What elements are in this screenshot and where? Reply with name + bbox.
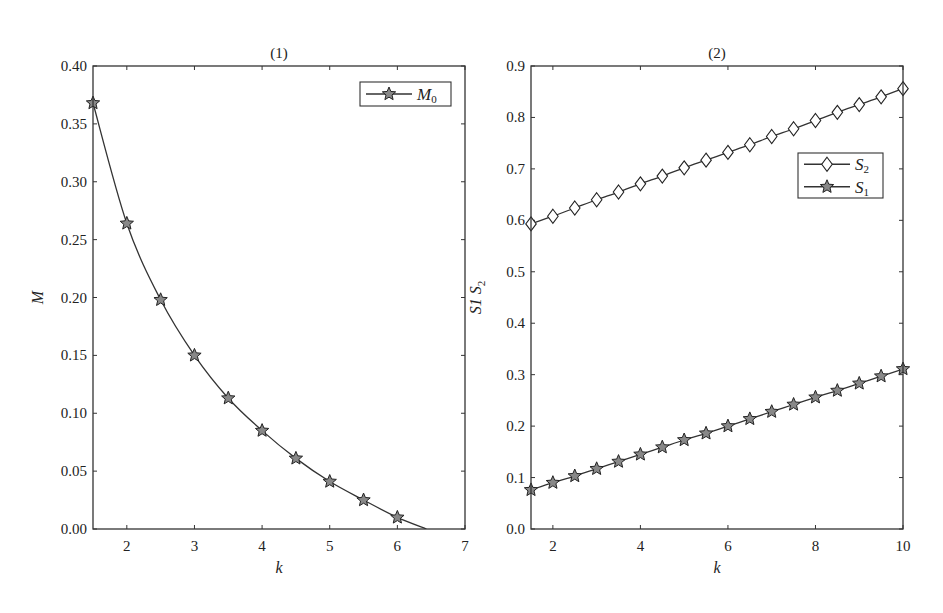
y-tick-label: 0.05 [61, 463, 87, 479]
x-tick-label: 4 [637, 538, 645, 554]
star-marker-icon [656, 440, 669, 453]
y-tick-label: 0.15 [61, 347, 87, 363]
y-tick-label: 0.00 [61, 521, 87, 537]
y-tick-label: 0.20 [61, 290, 87, 306]
plot-area-frame [93, 66, 465, 529]
series-line [531, 369, 903, 490]
x-tick-label: 3 [191, 538, 199, 554]
star-marker-icon [546, 476, 559, 489]
x-tick-label: 6 [394, 538, 402, 554]
y-tick-label: 0.8 [506, 109, 525, 125]
chart-panel-1: (1)2345670.000.050.100.150.200.250.300.3… [29, 45, 469, 576]
legend: M0 [360, 82, 451, 106]
y-tick-label: 0.10 [61, 405, 87, 421]
diamond-marker-icon [548, 209, 559, 223]
star-marker-icon [743, 412, 756, 425]
x-axis-label: k [713, 559, 721, 576]
chart-title: (2) [708, 45, 726, 62]
y-tick-label: 0.7 [506, 161, 525, 177]
diamond-marker-icon [723, 145, 734, 159]
y-tick-label: 0.3 [506, 367, 525, 383]
chart-title: (1) [270, 45, 288, 62]
series-markers [86, 96, 404, 523]
x-axis-label: k [275, 559, 283, 576]
star-marker-icon [765, 405, 778, 418]
star-marker-icon [357, 493, 370, 506]
figure: (1)2345670.000.050.100.150.200.250.300.3… [0, 0, 943, 613]
x-tick-label: 8 [812, 538, 820, 554]
series-S1 [531, 369, 903, 490]
diamond-marker-icon [810, 114, 821, 128]
y-tick-label: 0.0 [506, 521, 525, 537]
diamond-marker-icon [591, 193, 602, 207]
diamond-marker-icon [635, 177, 646, 191]
star-marker-icon [188, 348, 201, 361]
star-marker-icon [831, 384, 844, 397]
star-marker-icon [809, 390, 822, 403]
x-tick-label: 2 [549, 538, 557, 554]
diamond-marker-icon [613, 185, 624, 199]
diamond-marker-icon [766, 129, 777, 143]
star-marker-icon [154, 293, 167, 306]
series-markers [524, 362, 909, 496]
y-tick-label: 0.2 [506, 418, 525, 434]
diamond-marker-icon [570, 201, 581, 215]
x-tick-label: 6 [724, 538, 732, 554]
star-marker-icon [323, 475, 336, 488]
star-marker-icon [787, 398, 800, 411]
x-tick-label: 5 [326, 538, 334, 554]
plot-area-frame [531, 66, 903, 529]
x-tick-label: 4 [258, 538, 266, 554]
y-tick-label: 0.6 [506, 212, 525, 228]
y-axis-label: M [29, 289, 46, 305]
series-line [93, 103, 426, 529]
y-tick-label: 0.25 [61, 232, 87, 248]
x-tick-label: 2 [123, 538, 131, 554]
diamond-marker-icon [701, 153, 712, 167]
diamond-marker-icon [876, 90, 887, 104]
legend: S2S1 [798, 153, 883, 198]
diamond-marker-icon [854, 98, 865, 112]
x-tick-label: 10 [896, 538, 911, 554]
diamond-marker-icon [679, 161, 690, 175]
y-tick-label: 0.1 [506, 470, 525, 486]
star-marker-icon [634, 447, 647, 460]
diamond-marker-icon [657, 169, 668, 183]
x-tick-label: 7 [461, 538, 469, 554]
star-marker-icon [590, 462, 603, 475]
star-marker-icon [874, 369, 887, 382]
star-marker-icon [699, 426, 712, 439]
chart-panel-2: (2)2468100.00.10.20.30.40.50.60.70.80.9k… [467, 45, 911, 576]
y-tick-label: 0.40 [61, 58, 87, 74]
star-marker-icon [721, 419, 734, 432]
diamond-marker-icon [745, 138, 756, 152]
legend-box [798, 153, 883, 198]
star-marker-icon [568, 469, 581, 482]
diamond-marker-icon [788, 122, 799, 136]
y-axis-label: S1 S2 [467, 281, 487, 315]
y-tick-label: 0.4 [506, 315, 525, 331]
y-tick-label: 0.35 [61, 116, 87, 132]
star-marker-icon [120, 216, 133, 229]
star-marker-icon [853, 376, 866, 389]
y-tick-label: 0.9 [506, 58, 525, 74]
y-tick-label: 0.30 [61, 174, 87, 190]
star-marker-icon [612, 455, 625, 468]
y-tick-label: 0.5 [506, 264, 525, 280]
series-M0 [93, 103, 426, 529]
star-marker-icon [678, 433, 691, 446]
star-marker-icon [391, 510, 404, 523]
diamond-marker-icon [832, 105, 843, 119]
